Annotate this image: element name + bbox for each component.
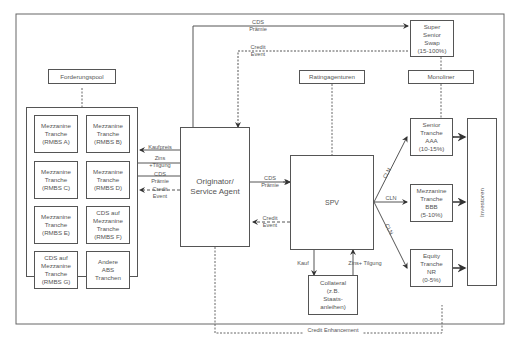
flow-credit-enhancement: Credit Enhancement <box>303 327 363 334</box>
originator-box: Originator/ Service Agent <box>180 127 250 247</box>
spv-label: SPV <box>325 199 339 207</box>
equity-tranche-box: Equity Tranche NR (0-5%) <box>410 249 453 287</box>
pool-item-rmbs-g: CDS auf Mezzanine Tranche (RMBS G) <box>34 251 78 289</box>
flow-credit-event-top: Credit Event <box>240 44 276 57</box>
monoliner-box: Monoliner <box>408 70 474 84</box>
super-senior-swap-box: Super Senior Swap (15-100%) <box>410 20 454 57</box>
investoren-box: Investoren <box>467 118 497 286</box>
forderungspool-label: Forderungspool <box>48 69 116 84</box>
flow-zins-tilgung: Zins +Tilgung <box>142 155 178 168</box>
pool-item-rmbs-a: Mezzanine Tranche (RMBS A) <box>34 115 78 153</box>
flow-credit-event-left: Credit Event <box>142 186 178 199</box>
pool-item-rmbs-f: CDS auf Mezzanine Tranche (RMBS F) <box>86 206 130 244</box>
flow-kauf: Kauf <box>293 260 313 267</box>
flow-cds-praemie-left: CDS Prämie <box>142 171 178 184</box>
mezzanine-tranche-box: Mezzanine Tranche BBB (5-10%) <box>410 184 453 222</box>
flow-cln-mezzanine: CLN <box>382 195 400 202</box>
flow-zins-tilgung-bottom: Zins+ Tilgung <box>340 260 390 267</box>
investoren-label: Investoren <box>478 188 486 217</box>
ratingagenturen-box: Ratingagenturen <box>299 70 365 84</box>
pool-item-rmbs-c: Mezzanine Tranche (RMBS C) <box>34 161 78 199</box>
securitization-diagram: Forderungspool Mezzanine Tranche (RMBS A… <box>0 0 519 355</box>
pool-item-rmbs-d: Mezzanine Tranche (RMBS D) <box>86 161 130 199</box>
senior-tranche-box: Senior Tranche AAA (10-15%) <box>410 118 453 156</box>
collateral-box: Collateral (z.B. Staats- anleihen) <box>308 275 358 315</box>
flow-credit-event-mid: Credit Event <box>252 215 288 228</box>
spv-box: SPV <box>290 155 374 250</box>
flow-cds-praemie-mid: CDS Prämie <box>252 175 288 188</box>
pool-item-rmbs-e: Mezzanine Tranche (RMBS E) <box>34 206 78 244</box>
flow-cds-praemie-top: CDS Prämie <box>240 19 276 32</box>
flow-kaufpreis: Kaufpreis <box>142 144 178 151</box>
pool-item-andere-abs: Andere ABS Tranchen <box>86 251 130 289</box>
pool-item-rmbs-b: Mezzanine Tranche (RMBS B) <box>86 115 130 153</box>
originator-label: Originator/ Service Agent <box>190 177 239 197</box>
